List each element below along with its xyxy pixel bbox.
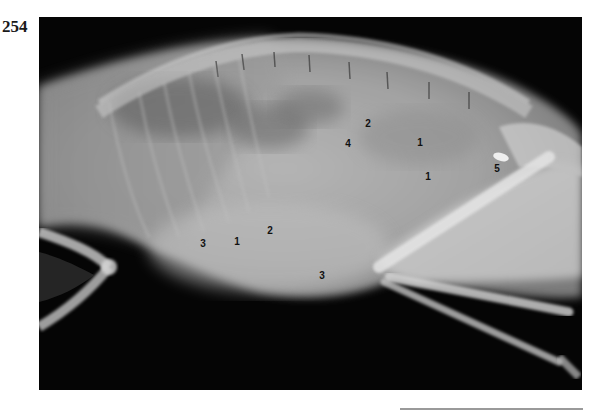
anatomy-label: 2 — [267, 226, 273, 236]
radiograph-image: 2 4 1 1 5 3 1 2 3 — [39, 17, 582, 390]
radiograph-illustration — [39, 17, 582, 390]
anatomy-label: 1 — [425, 172, 431, 182]
anatomy-label: 5 — [494, 164, 500, 174]
anatomy-label: 1 — [417, 138, 423, 148]
bottom-rule-divider — [400, 408, 583, 410]
anatomy-label: 2 — [365, 119, 371, 129]
page-number: 254 — [2, 17, 28, 37]
anatomy-label: 3 — [319, 271, 325, 281]
anatomy-label: 4 — [345, 139, 351, 149]
anatomy-label: 1 — [234, 237, 240, 247]
anatomy-label: 3 — [200, 239, 206, 249]
